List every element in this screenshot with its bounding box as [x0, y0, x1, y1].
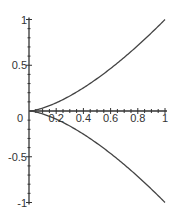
y-tick-label: -1 [17, 197, 27, 209]
x-tick-label: 0.4 [76, 112, 91, 124]
cusp-plot: 00.20.40.60.8110.5-0.5-1 [0, 0, 173, 218]
x-tick-label: 0.6 [103, 112, 118, 124]
lower-curve [29, 111, 165, 203]
axes [26, 18, 167, 205]
y-tick-label: 1 [21, 14, 27, 26]
x-tick-label: 0.2 [49, 112, 64, 124]
upper-curve [29, 20, 165, 112]
x-tick-label: 0 [17, 112, 23, 124]
x-tick-label: 0.8 [130, 112, 145, 124]
y-tick-label: 0.5 [12, 59, 27, 71]
y-tick-label: -0.5 [8, 151, 27, 163]
x-tick-label: 1 [162, 112, 168, 124]
